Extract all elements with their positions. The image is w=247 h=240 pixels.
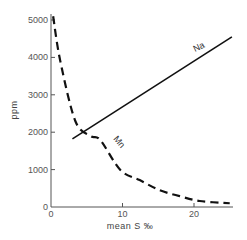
axes (51, 14, 233, 207)
series-label-mn: Mn (111, 134, 127, 150)
x-tick-label: 0 (48, 209, 53, 219)
x-tick-label: 20 (189, 209, 199, 219)
series-na-line (72, 37, 231, 139)
y-tick-label: 3000 (28, 90, 48, 100)
y-tick-label: 5000 (28, 15, 48, 25)
y-axis-label: ppm (9, 100, 19, 119)
y-tick-label: 4000 (28, 52, 48, 62)
y-tick-label: 2000 (28, 127, 48, 137)
x-axis-label: mean S ‰ (107, 221, 154, 231)
line-chart: 010002000300040005000 01020 NaMn ppm mea… (0, 0, 247, 240)
x-tick-label: 10 (117, 209, 127, 219)
series-label-na: Na (191, 40, 206, 54)
y-tick-label: 0 (43, 202, 48, 212)
y-tick-label: 1000 (28, 165, 48, 175)
series-group: NaMn (53, 16, 232, 203)
x-ticks: 01020 (48, 203, 199, 219)
